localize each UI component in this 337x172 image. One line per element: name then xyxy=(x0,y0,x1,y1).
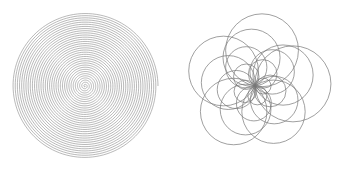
spiral-path xyxy=(13,14,158,158)
rosette-circle xyxy=(226,14,299,87)
rosette-circle xyxy=(253,45,313,105)
rosette-circle xyxy=(242,80,305,143)
rosette-drawing xyxy=(167,0,337,172)
circle-rosette-figure xyxy=(167,0,337,172)
rosette-circle xyxy=(200,78,267,145)
spiral-drawing xyxy=(0,0,170,172)
rosette-circle xyxy=(255,46,331,122)
archimedean-spiral-figure xyxy=(0,0,170,172)
